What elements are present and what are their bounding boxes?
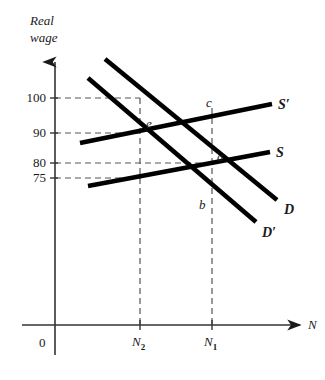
y-tick-label-75: 75	[14, 171, 46, 184]
supply-curve-S-prime	[80, 104, 272, 143]
point-label-b: b	[199, 198, 206, 211]
y-axis-title-line1: Real	[30, 14, 54, 27]
y-axis-ticks	[50, 98, 58, 178]
curves	[80, 59, 277, 222]
x-tick-label-N1-sub: 1	[213, 342, 218, 352]
curve-label-s-prime: S′	[278, 98, 290, 112]
x-tick-label-N2: N2	[132, 335, 145, 352]
x-tick-label-N2-sub: 2	[141, 342, 146, 352]
y-tick-label-100: 100	[14, 91, 46, 104]
curve-label-d-prime: D′	[262, 226, 276, 240]
x-axis-label: N	[308, 318, 317, 331]
x-tick-label-N1: N1	[204, 335, 217, 352]
curve-label-d: D	[284, 203, 294, 217]
point-label-c: c	[206, 96, 212, 109]
origin-label: 0	[39, 336, 46, 349]
point-label-a: a	[217, 150, 224, 163]
point-label-e: e	[146, 117, 152, 130]
y-tick-label-90: 90	[14, 126, 46, 139]
curve-label-s: S	[276, 146, 284, 160]
y-tick-label-80: 80	[14, 156, 46, 169]
demand-curve-D-prime	[88, 78, 256, 222]
diagram-canvas	[0, 0, 325, 380]
x-tick-label-N2-base: N	[132, 334, 141, 349]
y-axis-title-line2: wage	[30, 31, 57, 44]
x-tick-label-N1-base: N	[204, 334, 213, 349]
labour-market-diagram: Real wage 100 90 80 75 0 N2 N1 N S′ S D …	[0, 0, 325, 380]
